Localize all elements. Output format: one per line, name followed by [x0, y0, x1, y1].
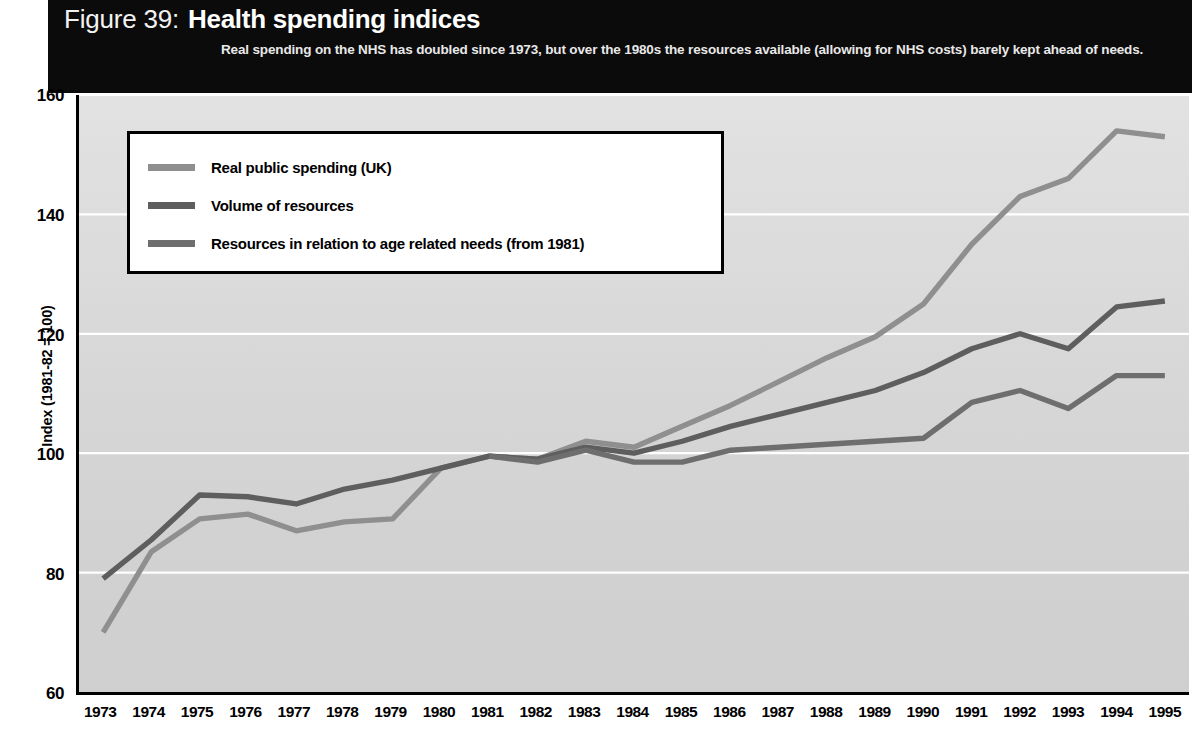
- y-tick-60: 60: [0, 684, 64, 704]
- legend-item-real-public-spending[interactable]: Real public spending (UK): [148, 148, 721, 186]
- y-tick-100: 100: [0, 445, 64, 465]
- legend-item-age-related-needs[interactable]: Resources in relation to age related nee…: [148, 224, 721, 262]
- y-tick-140: 140: [0, 206, 64, 226]
- y-tick-80: 80: [0, 565, 64, 585]
- x-tick-1981: 1981: [471, 703, 503, 721]
- x-tick-1990: 1990: [907, 703, 939, 721]
- x-tick-1995: 1995: [1149, 703, 1181, 721]
- x-tick-1976: 1976: [229, 703, 261, 721]
- x-tick-1993: 1993: [1052, 703, 1084, 721]
- x-tick-1975: 1975: [181, 703, 213, 721]
- legend-swatch-volume-of-resources: [148, 202, 195, 209]
- legend-label-age-related-needs: Resources in relation to age related nee…: [211, 235, 584, 252]
- x-tick-1974: 1974: [132, 703, 164, 721]
- x-tick-1985: 1985: [665, 703, 697, 721]
- x-tick-1988: 1988: [810, 703, 842, 721]
- x-tick-1994: 1994: [1100, 703, 1132, 721]
- figure-container: Figure 39:Health spending indices Real s…: [0, 0, 1192, 738]
- x-tick-1986: 1986: [713, 703, 745, 721]
- legend-item-volume-of-resources[interactable]: Volume of resources: [148, 186, 721, 224]
- x-tick-1979: 1979: [374, 703, 406, 721]
- x-tick-1983: 1983: [568, 703, 600, 721]
- x-tick-1977: 1977: [278, 703, 310, 721]
- x-tick-1982: 1982: [519, 703, 551, 721]
- legend-label-volume-of-resources: Volume of resources: [211, 197, 354, 214]
- x-tick-1980: 1980: [423, 703, 455, 721]
- x-tick-1973: 1973: [84, 703, 116, 721]
- legend-swatch-age-related-needs: [148, 240, 195, 247]
- legend-swatch-real-public-spending: [148, 164, 195, 171]
- x-tick-1991: 1991: [955, 703, 987, 721]
- x-tick-1978: 1978: [326, 703, 358, 721]
- y-tick-160: 160: [0, 86, 64, 106]
- x-tick-1992: 1992: [1003, 703, 1035, 721]
- x-tick-1987: 1987: [761, 703, 793, 721]
- x-axis-tick-labels: 1973197419751976197719781979198019811982…: [76, 703, 1189, 733]
- chart-legend: Real public spending (UK) Volume of reso…: [127, 131, 724, 274]
- legend-label-real-public-spending: Real public spending (UK): [211, 159, 391, 176]
- y-tick-120: 120: [0, 326, 64, 346]
- x-tick-1984: 1984: [616, 703, 648, 721]
- x-tick-1989: 1989: [858, 703, 890, 721]
